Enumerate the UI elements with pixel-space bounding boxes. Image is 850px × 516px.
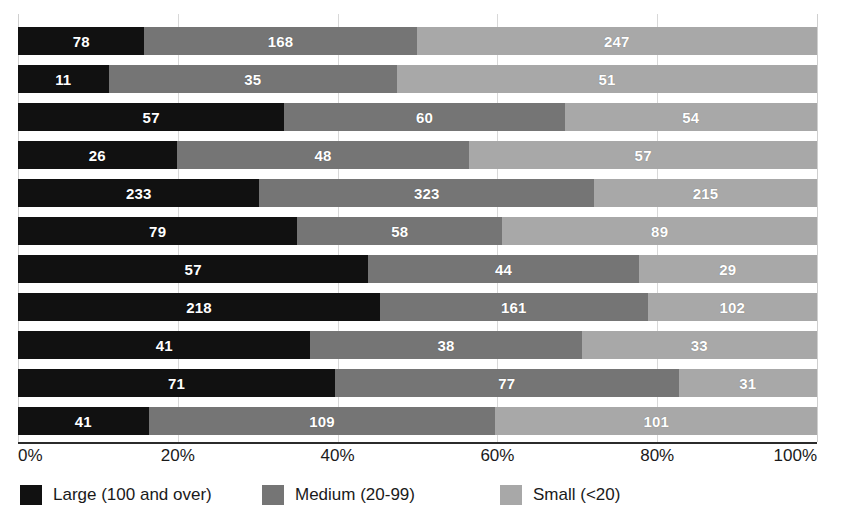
bar-segment-large: 57 (18, 103, 284, 131)
bar-segment-value: 26 (89, 148, 106, 163)
plot-area: 7816824711355157605426485723332321579588… (18, 14, 817, 442)
legend-item-large[interactable]: Large (100 and over) (20, 485, 212, 505)
bar-segment-value: 57 (185, 262, 202, 277)
bar-segment-value: 48 (314, 148, 331, 163)
legend-swatch-medium-icon (262, 485, 284, 505)
legend-label: Medium (20-99) (295, 485, 415, 505)
bar-segment-value: 168 (268, 34, 294, 49)
bar-segment-small: 51 (397, 65, 817, 93)
legend-label: Large (100 and over) (53, 485, 212, 505)
bar-segment-medium: 35 (109, 65, 397, 93)
bar-segment-medium: 168 (144, 27, 416, 55)
legend-swatch-large-icon (20, 485, 42, 505)
bar-segment-medium: 60 (284, 103, 564, 131)
bar-segment-value: 41 (156, 338, 173, 353)
bar-row: 574429 (18, 255, 817, 283)
bar-row: 78168247 (18, 27, 817, 55)
bar-segment-value: 33 (691, 338, 708, 353)
bar-segment-large: 71 (18, 369, 335, 397)
bar-row: 233323215 (18, 179, 817, 207)
bar-segment-small: 89 (502, 217, 817, 245)
bar-row: 218161102 (18, 293, 817, 321)
bar-segment-medium: 77 (335, 369, 679, 397)
bar-segment-value: 54 (682, 110, 699, 125)
bar-segment-value: 247 (604, 34, 630, 49)
bar-segment-medium: 38 (310, 331, 581, 359)
x-axis-tick-labels: 0%20%40%60%80%100% (18, 444, 817, 470)
bar-segment-value: 78 (73, 34, 90, 49)
legend-label: Small (<20) (533, 485, 620, 505)
legend-swatch-small-icon (500, 485, 522, 505)
bar-segment-value: 233 (126, 186, 152, 201)
x-tick-label-40: 40% (321, 446, 355, 466)
bar-rows-container: 7816824711355157605426485723332321579588… (18, 14, 817, 442)
bar-segment-value: 77 (498, 376, 515, 391)
bar-segment-medium: 323 (259, 179, 594, 207)
bar-segment-value: 29 (719, 262, 736, 277)
bar-segment-value: 89 (651, 224, 668, 239)
bar-segment-small: 247 (417, 27, 817, 55)
bar-segment-value: 60 (416, 110, 433, 125)
bar-segment-large: 79 (18, 217, 297, 245)
bar-segment-large: 78 (18, 27, 144, 55)
bar-segment-value: 44 (495, 262, 512, 277)
x-tick-label-80: 80% (640, 446, 674, 466)
x-tick-label-20: 20% (161, 446, 195, 466)
gridline-100 (817, 14, 818, 442)
bar-segment-value: 51 (598, 72, 615, 87)
bar-segment-value: 11 (55, 72, 71, 87)
bar-segment-medium: 161 (380, 293, 647, 321)
bar-segment-value: 79 (149, 224, 166, 239)
bar-segment-medium: 48 (177, 141, 470, 169)
bar-row: 576054 (18, 103, 817, 131)
bar-segment-value: 109 (309, 414, 335, 429)
bar-segment-large: 218 (18, 293, 380, 321)
bar-segment-small: 101 (495, 407, 817, 435)
bar-segment-value: 57 (143, 110, 160, 125)
bar-segment-small: 54 (565, 103, 817, 131)
bar-segment-value: 323 (414, 186, 440, 201)
legend-item-medium[interactable]: Medium (20-99) (262, 485, 415, 505)
stacked-bar-chart: 7816824711355157605426485723332321579588… (0, 0, 850, 516)
bar-segment-value: 101 (643, 414, 669, 429)
bar-segment-small: 31 (679, 369, 817, 397)
bar-segment-large: 41 (18, 331, 310, 359)
legend-item-small[interactable]: Small (<20) (500, 485, 620, 505)
bar-row: 113551 (18, 65, 817, 93)
bar-segment-value: 215 (693, 186, 719, 201)
bar-segment-small: 29 (639, 255, 817, 283)
bar-segment-small: 57 (469, 141, 817, 169)
bar-segment-value: 102 (719, 300, 745, 315)
bar-segment-large: 26 (18, 141, 177, 169)
bar-segment-value: 71 (168, 376, 185, 391)
bar-segment-large: 11 (18, 65, 109, 93)
bar-segment-medium: 109 (149, 407, 496, 435)
bar-segment-value: 35 (244, 72, 261, 87)
bar-segment-value: 218 (186, 300, 212, 315)
bar-row: 41109101 (18, 407, 817, 435)
x-tick-label-100: 100% (774, 446, 817, 466)
bar-segment-value: 161 (501, 300, 527, 315)
bar-segment-large: 233 (18, 179, 259, 207)
bar-segment-small: 215 (594, 179, 817, 207)
x-tick-label-0: 0% (18, 446, 43, 466)
bar-segment-large: 41 (18, 407, 149, 435)
bar-row: 264857 (18, 141, 817, 169)
bar-segment-large: 57 (18, 255, 368, 283)
bar-segment-value: 41 (75, 414, 92, 429)
bar-segment-value: 38 (437, 338, 454, 353)
bar-row: 413833 (18, 331, 817, 359)
bar-segment-medium: 58 (297, 217, 502, 245)
bar-segment-value: 31 (739, 376, 756, 391)
bar-segment-value: 57 (635, 148, 652, 163)
bar-segment-medium: 44 (368, 255, 638, 283)
x-tick-label-60: 60% (480, 446, 514, 466)
bar-segment-small: 33 (582, 331, 817, 359)
bar-segment-value: 58 (391, 224, 408, 239)
bar-row: 717731 (18, 369, 817, 397)
bar-segment-small: 102 (648, 293, 817, 321)
bar-row: 795889 (18, 217, 817, 245)
